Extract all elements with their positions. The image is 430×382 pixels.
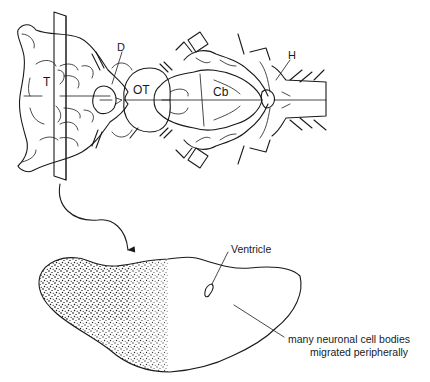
section-arrow: [59, 184, 128, 250]
annotation-line-2: migrated peripherally: [310, 346, 409, 358]
label-d: D: [117, 41, 125, 53]
label-h: H: [288, 49, 296, 61]
ventricle-leader: [212, 252, 228, 284]
label-cb: Cb: [213, 85, 229, 99]
brain-diagram: T D OT: [0, 0, 430, 382]
ventricle: [205, 284, 213, 297]
cerebellum: Cb: [154, 32, 270, 168]
label-t: T: [43, 75, 51, 89]
ventricle-label: Ventricle: [231, 243, 271, 255]
dorsal-brain-view: T D OT: [18, 12, 326, 180]
annotation-line-1: many neuronal cell bodies: [288, 333, 410, 345]
annotation-leader: [234, 305, 284, 337]
label-ot: OT: [133, 83, 150, 97]
stippled-region: [30, 250, 170, 380]
hindbrain: H: [261, 49, 326, 136]
cross-section: Ventricle many neuronal cell bodies migr…: [30, 243, 410, 380]
telencephalon: T: [18, 25, 128, 172]
